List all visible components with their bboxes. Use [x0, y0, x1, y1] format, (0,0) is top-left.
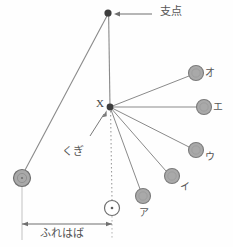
ball-i [165, 169, 180, 184]
nail-to-ball-o-string [110, 76, 189, 107]
nail-to-ball-u-string [110, 107, 189, 147]
pendulum-diagram-svg [0, 0, 233, 247]
pivot-dot [104, 9, 111, 16]
ball-i-label: イ [180, 182, 190, 192]
nail-label: くぎ [62, 146, 84, 157]
pivot-arrow-head [114, 12, 120, 17]
amplitude-arrow-head-right [106, 222, 112, 226]
pivot-label: 支点 [160, 6, 182, 17]
ball-e-label: エ [213, 102, 223, 112]
amplitude-label: ふれはば [40, 228, 84, 239]
pendulum-figure: 支点 X くぎ ふれはば ア イ ウ エ オ [0, 0, 233, 247]
amplitude-arrow-head-left [22, 222, 28, 226]
ball-a-label: ア [139, 208, 149, 218]
nail-arrow-shaft [90, 114, 104, 136]
ball-o [189, 66, 204, 81]
nail-arrow-head [102, 110, 107, 117]
ball-u-label: ウ [205, 152, 215, 162]
rest-position-center-dot [111, 207, 114, 210]
nail-to-rest-dotted-line [111, 107, 113, 200]
ball-o-label: オ [205, 68, 215, 78]
nail-to-ball-i-string [110, 107, 166, 171]
pivot-to-nail-string [109, 13, 110, 107]
ball-e [197, 100, 212, 115]
nail-dot [107, 104, 114, 111]
nail-to-ball-a-string [110, 107, 140, 189]
ball-a [136, 189, 151, 204]
nail-point-label: X [96, 98, 104, 109]
ball-u [189, 143, 204, 158]
release-ball-center-dot [21, 177, 23, 179]
